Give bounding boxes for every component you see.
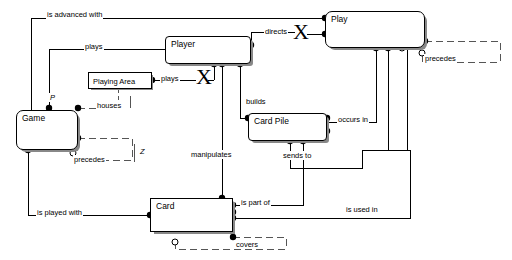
label-plays-area: plays <box>160 74 180 83</box>
entity-play[interactable]: Play <box>325 11 425 48</box>
connector-is-used-in <box>233 150 410 218</box>
dot-game-right-houses <box>75 105 81 111</box>
label-manipulates: manipulates <box>190 150 232 159</box>
entity-playing-area[interactable]: Playing Area <box>88 72 152 89</box>
uniqueness-x-playing-area: X <box>196 66 212 88</box>
label-is-part-of: is part of <box>240 198 271 207</box>
entity-card[interactable]: Card <box>150 198 233 232</box>
label-directs: directs <box>264 27 288 36</box>
entity-player[interactable]: Player <box>165 36 251 64</box>
label-builds: builds <box>245 97 267 106</box>
label-occurs-in: occurs in <box>337 115 369 124</box>
label-sends-to: sends to <box>282 151 312 160</box>
connector-occurs-in <box>327 48 376 122</box>
label-covers: covers <box>235 240 259 249</box>
entity-card-pile-label: Card Pile <box>254 116 289 127</box>
entity-player-label: Player <box>171 39 195 50</box>
label-precedes-game: precedes <box>73 155 106 164</box>
entity-card-pile[interactable]: Card Pile <box>248 113 327 141</box>
entity-card-label: Card <box>156 201 174 212</box>
diagram-canvas: Game Player Play Playing Area Card Pile … <box>0 0 512 260</box>
annotation-z: Z <box>139 147 146 156</box>
entity-play-label: Play <box>331 14 348 25</box>
label-is-used-in: is used in <box>345 205 379 214</box>
entity-game-label: Game <box>22 113 45 124</box>
ring-card-covers-optional <box>172 239 178 245</box>
annotation-p: P <box>49 93 56 102</box>
connector-builds <box>240 64 248 118</box>
entity-game[interactable]: Game <box>16 110 78 150</box>
uniqueness-x-player-play: X <box>293 21 309 43</box>
label-is-played-with: is played with <box>36 208 83 217</box>
label-is-advanced-with: is advanced with <box>46 10 103 19</box>
label-plays-game: plays <box>84 42 104 51</box>
label-houses: houses <box>96 101 122 110</box>
entity-playing-area-label: Playing Area <box>93 76 135 87</box>
label-precedes-play: precedes <box>424 54 457 63</box>
